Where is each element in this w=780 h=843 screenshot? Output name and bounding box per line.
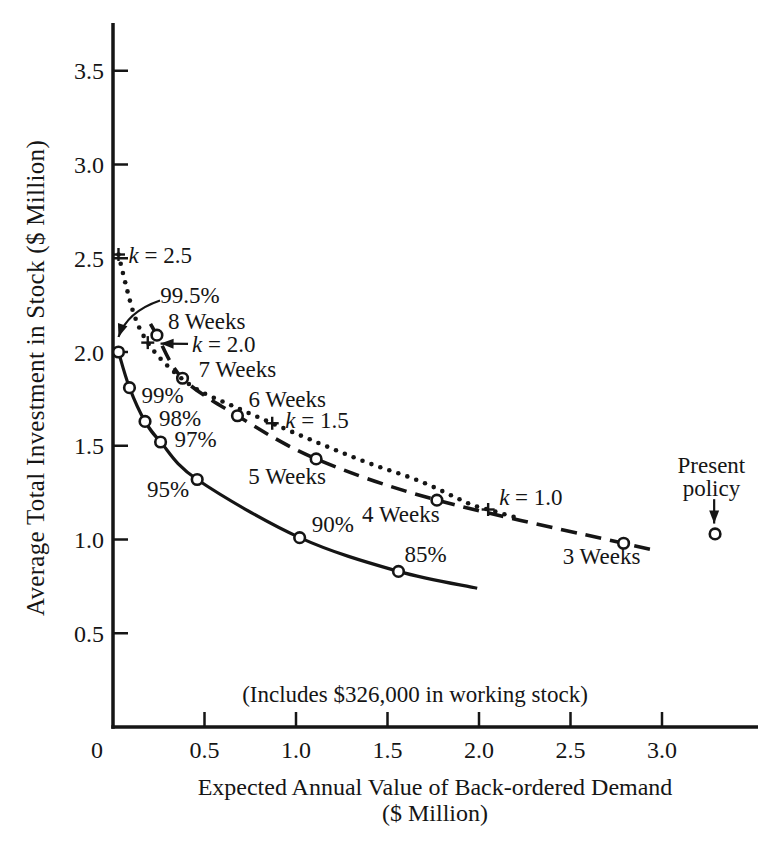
curve-safety-factor-k-dot xyxy=(378,465,383,470)
annotation-text-service-99-5: 99.5% xyxy=(160,283,219,308)
curve-safety-factor-k-dot xyxy=(238,407,243,412)
label-4-weeks: 4 Weeks xyxy=(362,502,440,527)
curve-safety-factor-k-dot xyxy=(255,415,260,420)
annotation-k-2-0: k = 2.0 xyxy=(161,332,256,357)
marker-5-weeks xyxy=(311,454,322,465)
marker-95 xyxy=(192,474,203,485)
y-tick-label-2.0: 2.0 xyxy=(74,340,104,366)
curve-safety-factor-k-dot xyxy=(133,316,138,321)
marker-98 xyxy=(140,416,151,427)
curve-safety-factor-k-dot xyxy=(325,444,330,449)
x-tick-label-1.0: 1.0 xyxy=(281,737,311,763)
label-k-1.5: k = 1.5 xyxy=(285,408,348,433)
annotation-text-k-2-0: k = 2.0 xyxy=(192,332,255,357)
inventory-policy-chart-figure: 0.51.01.52.02.53.03.500.51.01.52.02.53.0… xyxy=(0,0,780,843)
curve-safety-factor-k-dot xyxy=(165,363,170,368)
label-5-weeks: 5 Weeks xyxy=(248,464,326,489)
y-tick-label-1.0: 1.0 xyxy=(74,527,104,553)
x-tick-label-0.5: 0.5 xyxy=(190,737,220,763)
label-97: 97% xyxy=(175,427,217,452)
curve-safety-factor-k-dot xyxy=(141,334,146,339)
x-tick-label-2.5: 2.5 xyxy=(556,737,586,763)
annotation-present-policy: Presentpolicy xyxy=(678,453,746,540)
marker-97 xyxy=(155,437,166,448)
curve-safety-factor-k-dot xyxy=(121,271,126,276)
curve-safety-factor-k-dot xyxy=(246,411,251,416)
curve-safety-factor-k-dot xyxy=(212,396,217,401)
curve-safety-factor-k-dot xyxy=(449,493,454,498)
curve-safety-factor-k-dot xyxy=(220,399,225,404)
curve-safety-factor-k-dot xyxy=(360,458,365,463)
label-90: 90% xyxy=(312,512,354,537)
label-95: 95% xyxy=(147,477,189,502)
x-tick-label-3.0: 3.0 xyxy=(647,737,677,763)
curve-safety-factor-k-dot xyxy=(502,512,507,517)
curve-safety-factor-k-dot xyxy=(187,382,192,387)
label-99: 99% xyxy=(141,383,183,408)
x-tick-label-2.0: 2.0 xyxy=(464,737,494,763)
marker-k-1.5 xyxy=(266,417,279,430)
curve-safety-factor-k-dot xyxy=(123,280,128,285)
label-3-weeks: 3 Weeks xyxy=(563,544,641,569)
y-tick-label-2.5: 2.5 xyxy=(74,246,104,272)
y-tick-label-3.5: 3.5 xyxy=(74,58,104,84)
x-axis-title-line2: ($ Million) xyxy=(382,800,488,827)
curve-safety-factor-k-dot xyxy=(369,462,374,467)
marker-service-level-0.03 xyxy=(113,347,124,358)
y-tick-label-0.5: 0.5 xyxy=(74,621,104,647)
curve-safety-factor-k-dot xyxy=(387,468,392,473)
x-axis-title-line1: Expected Annual Value of Back-ordered De… xyxy=(198,774,673,801)
curve-safety-factor-k-dot xyxy=(125,289,130,294)
curve-safety-factor-k-dot xyxy=(172,370,177,375)
curve-safety-factor-k-dot xyxy=(307,437,312,442)
curve-safety-factor-k-dot xyxy=(414,477,419,482)
curve-safety-factor-k-dot xyxy=(179,376,184,381)
curve-safety-factor-k-dot xyxy=(343,452,348,457)
curve-safety-factor-k-dot xyxy=(334,448,339,453)
marker-85 xyxy=(393,566,404,577)
curve-safety-factor-k-dot xyxy=(475,504,480,509)
chart-canvas: 0.51.01.52.02.53.03.500.51.01.52.02.53.0… xyxy=(0,0,780,843)
curve-safety-factor-k-dot xyxy=(118,261,123,266)
curve-safety-factor-k-dot xyxy=(431,485,436,490)
curve-safety-factor-k-dot xyxy=(152,349,157,354)
label-k-2.5: k = 2.5 xyxy=(128,243,191,268)
curve-safety-factor-k-dot xyxy=(158,356,163,361)
label-85: 85% xyxy=(404,542,446,567)
curve-safety-factor-k-dot xyxy=(511,515,516,520)
curve-safety-factor-k-dot xyxy=(130,308,135,313)
curve-safety-factor-k-dot xyxy=(128,298,133,303)
marker-present-policy xyxy=(710,529,721,540)
curve-safety-factor-k-dot xyxy=(423,481,428,486)
curve-safety-factor-k-dot xyxy=(440,489,445,494)
curve-safety-factor-k-dot xyxy=(316,441,321,446)
marker-8-weeks xyxy=(152,330,163,341)
annotation-arrowhead-service-99-5 xyxy=(118,323,127,337)
y-tick-label-3.0: 3.0 xyxy=(74,152,104,178)
label-7-weeks: 7 Weeks xyxy=(199,357,277,382)
annotation-arrowhead-present-policy xyxy=(709,511,719,524)
label-k-1.0: k = 1.0 xyxy=(499,485,562,510)
curve-safety-factor-k-dot xyxy=(299,433,304,438)
x-tick-label-1.5: 1.5 xyxy=(373,737,403,763)
marker-99 xyxy=(124,382,135,393)
annotation-text-present-policy-0: Present xyxy=(678,453,746,478)
curve-safety-factor-k-dot xyxy=(396,471,401,476)
annotation-text-present-policy-1: policy xyxy=(683,476,741,501)
curve-safety-factor-k-dot xyxy=(203,392,208,397)
x-tick-label-0: 0 xyxy=(91,737,103,763)
curve-safety-factor-k-dot xyxy=(137,325,142,330)
curve-safety-factor-k-dot xyxy=(466,501,471,506)
curve-safety-factor-k-dot xyxy=(457,497,462,502)
curve-safety-factor-k-dot xyxy=(405,474,410,479)
curve-safety-factor-k-dot xyxy=(229,403,234,408)
working-stock-note: (Includes $326,000 in working stock) xyxy=(242,682,588,708)
y-tick-label-1.5: 1.5 xyxy=(74,433,104,459)
curve-safety-factor-k-dot xyxy=(195,387,200,392)
marker-90 xyxy=(294,532,305,543)
y-axis-title: Average Total Investment in Stock ($ Mil… xyxy=(22,140,50,616)
curve-safety-factor-k-dot xyxy=(351,455,356,460)
marker-6-weeks xyxy=(232,410,243,421)
label-8-weeks: 8 Weeks xyxy=(168,309,246,334)
